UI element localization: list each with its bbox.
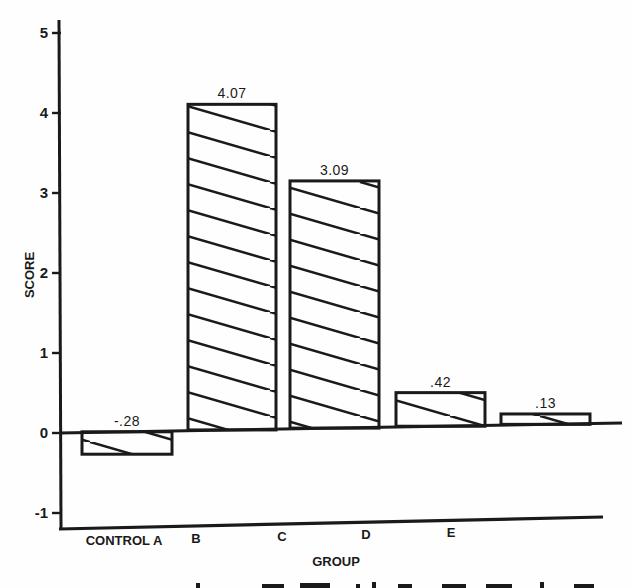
x-tick-label: D: [361, 527, 370, 542]
y-tick-label: 4: [40, 104, 49, 121]
y-axis-title: SCORE: [22, 252, 37, 299]
x-axis-line: [59, 517, 603, 529]
y-tick-label: 3: [40, 184, 48, 201]
x-tick-label: E: [447, 525, 456, 540]
y-axis: 543210-1 SCORE: [22, 20, 61, 528]
bar-value-label: 4.07: [217, 85, 246, 101]
y-tick-label: 1: [40, 344, 48, 361]
x-tick-label: B: [191, 531, 200, 546]
bar-chart: 543210-1 SCORE -.284.073.09.42.13 CONTRO…: [0, 0, 630, 588]
y-tick-label: 5: [40, 24, 48, 41]
cutoff-caption-text: [196, 582, 594, 588]
bar-d: [396, 393, 485, 427]
bar-e: [501, 414, 590, 424]
bar-value-label: 3.09: [320, 162, 349, 178]
bar-c: [290, 181, 379, 428]
y-tick-label: 0: [40, 424, 48, 441]
bar-value-label: -.28: [114, 413, 140, 429]
bar-b: [188, 104, 276, 430]
bar-control-a: [82, 432, 172, 454]
x-axis-title: GROUP: [312, 554, 360, 569]
bar-value-label: .42: [430, 374, 451, 390]
x-tick-label: C: [277, 529, 287, 544]
bar-value-label: .13: [535, 395, 556, 411]
x-tick-label: CONTROL A: [86, 533, 163, 548]
y-tick-label: 2: [40, 264, 48, 281]
bars: -.284.073.09.42.13: [82, 85, 590, 454]
y-ticks: 543210-1: [35, 24, 61, 521]
y-tick-label: -1: [35, 504, 48, 521]
